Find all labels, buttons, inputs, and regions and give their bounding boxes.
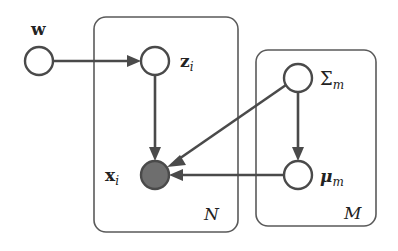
edge-w-to-z xyxy=(53,55,141,67)
node-mu xyxy=(284,161,312,189)
plate-m-label: M xyxy=(343,203,362,223)
edge-sigma-to-x xyxy=(167,85,286,167)
graphical-model-diagram: w zi xi Σm μm N M xyxy=(0,0,398,251)
label-x: xi xyxy=(105,165,119,188)
edge-sigma-to-mu xyxy=(292,92,304,161)
plate-m xyxy=(256,50,376,226)
node-w xyxy=(25,47,53,75)
edge-z-to-x xyxy=(149,75,161,161)
label-w: w xyxy=(30,19,46,39)
node-x-observed xyxy=(141,161,169,189)
label-z: zi xyxy=(180,51,194,74)
node-z xyxy=(141,47,169,75)
plate-n-label: N xyxy=(203,204,220,224)
node-sigma xyxy=(284,64,312,92)
label-sigma: Σm xyxy=(320,68,344,92)
plate-n xyxy=(94,17,238,232)
edge-mu-to-x xyxy=(169,169,284,181)
label-mu: μm xyxy=(320,166,344,189)
